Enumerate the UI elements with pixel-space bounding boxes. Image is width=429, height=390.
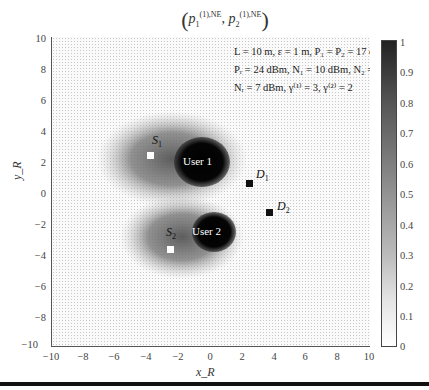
- y-tick: −6: [14, 281, 46, 292]
- colorbar-tick: 1: [400, 37, 405, 48]
- colorbar-tick: 0.8: [400, 98, 413, 109]
- y-tick: −4: [14, 250, 46, 261]
- colorbar-tick: 0.9: [400, 67, 413, 78]
- s2-marker: [167, 246, 174, 253]
- d1-label: D1: [256, 167, 269, 183]
- x-tick: 10: [354, 351, 384, 362]
- x-tick: 0: [195, 351, 225, 362]
- title-p2: p: [229, 11, 236, 26]
- title-p2-sub: 2: [236, 20, 240, 29]
- colorbar: [381, 40, 397, 347]
- s1-marker: [147, 152, 154, 159]
- s2-label: S2: [166, 225, 176, 241]
- x-tick: −2: [163, 351, 193, 362]
- colorbar-tick: 0.2: [400, 281, 413, 292]
- annotation-line-1: L = 10 m, ε = 1 m, P₁ = P₂ = 17 dBm: [234, 43, 370, 60]
- title-p1-sub: 1: [196, 20, 200, 29]
- s1-label: S1: [152, 133, 162, 149]
- x-tick: 8: [322, 351, 352, 362]
- d2-marker: [266, 209, 273, 216]
- colorbar-tick: 0.1: [400, 311, 413, 322]
- x-tick: −4: [131, 351, 161, 362]
- colorbar-tick: 0.6: [400, 159, 413, 170]
- colorbar-tick: 0.7: [400, 128, 413, 139]
- y-tick: −10: [6, 339, 38, 350]
- x-tick: 2: [227, 351, 257, 362]
- title-p2-sup: (1),NE: [240, 10, 262, 19]
- colorbar-tick: 0.3: [400, 250, 413, 261]
- y-axis-label: y_R: [10, 161, 25, 180]
- x-tick: 6: [290, 351, 320, 362]
- y-tick: −8: [14, 312, 46, 323]
- title-p1-sup: (1),NE: [200, 10, 222, 19]
- annotation-line-2: Pᵣ = 24 dBm, N₁ = 10 dBm, N₂ = 9 dBm,: [234, 61, 370, 78]
- y-tick: 0: [14, 188, 46, 199]
- x-tick: −6: [99, 351, 129, 362]
- y-tick: −2: [14, 219, 46, 230]
- colorbar-tick: 0: [400, 341, 405, 352]
- user2-label: User 2: [192, 225, 221, 237]
- heatmap-plot-area: L = 10 m, ε = 1 m, P₁ = P₂ = 17 dBm Pᵣ =…: [51, 37, 370, 347]
- user1-label: User 1: [183, 155, 212, 167]
- bottom-rule: [0, 382, 429, 386]
- colorbar-tick: 0.4: [400, 220, 413, 231]
- colorbar-tick: 0.5: [400, 189, 413, 200]
- x-tick: −8: [68, 351, 98, 362]
- x-tick: −10: [36, 351, 66, 362]
- annotation-line-3: Nᵣ = 7 dBm, γ⁽¹⁾ = 3, γ⁽²⁾ = 2: [234, 79, 353, 96]
- x-axis-label: x_R: [196, 365, 215, 380]
- y-tick: 10: [14, 33, 46, 44]
- y-tick: 4: [14, 126, 46, 137]
- d2-label: D2: [277, 199, 290, 215]
- title-close-paren: ): [262, 7, 269, 32]
- y-tick: 6: [14, 95, 46, 106]
- chart-title: (p1(1),NE, p2(1),NE): [150, 4, 300, 34]
- y-tick: 8: [14, 64, 46, 75]
- title-p1: p: [189, 11, 196, 26]
- d1-marker: [246, 180, 253, 187]
- x-tick: 4: [259, 351, 289, 362]
- title-open-paren: (: [181, 7, 188, 32]
